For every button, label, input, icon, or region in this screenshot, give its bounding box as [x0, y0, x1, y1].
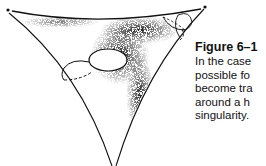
left-edge [9, 13, 112, 166]
vertex-dot-left [6, 8, 9, 11]
figure-caption: Figure 6–1 In the case possible fo becom… [195, 40, 266, 123]
vertex-dot-right [203, 5, 206, 8]
caption-line: around a h [195, 96, 266, 110]
caption-line: possible fo [195, 69, 266, 83]
caption-line: In the case [195, 55, 266, 69]
caption-title: Figure 6–1 [195, 40, 266, 54]
handle-loop [62, 61, 92, 80]
caption-line: become tra [195, 82, 266, 96]
wormhole-mouth [89, 49, 127, 71]
caption-line: singularity. [195, 109, 266, 123]
stipple-shading [20, 16, 180, 135]
